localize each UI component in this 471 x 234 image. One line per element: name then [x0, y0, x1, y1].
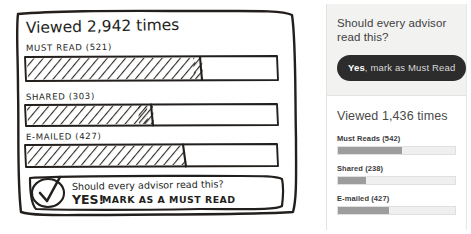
- ask-advisor-block: Should every advisor read this? Yes, mar…: [327, 4, 466, 96]
- sketch-bar-group-emailed: E-MAILED (427): [25, 131, 278, 167]
- sketch-bar-group-shared: SHARED (303): [25, 91, 278, 126]
- sketch-bar-group-must-read: MUST READ (521): [25, 42, 278, 81]
- yes-label: Yes: [348, 62, 365, 73]
- stats-block: Viewed 1,436 times Must Reads (542) Shar…: [327, 96, 466, 234]
- progress-bar-fill: [338, 177, 366, 184]
- stats-title: Viewed 1,436 times: [337, 109, 456, 123]
- sketch-callout-answer-emphasis: YES!: [71, 192, 104, 207]
- stat-label-shared: Shared (238): [337, 164, 456, 173]
- stat-label-emailed: E-mailed (427): [337, 194, 456, 203]
- stat-row: E-mailed (427): [337, 194, 456, 215]
- sketch-bar-label: SHARED (303): [26, 91, 95, 102]
- mark-as-must-read-button[interactable]: Yes, mark as Must Read: [337, 55, 466, 81]
- sketch-callout[interactable]: Should every advisor read this? YES! MAR…: [30, 176, 283, 210]
- ask-question-text: Should every advisor read this?: [337, 16, 456, 44]
- stat-label-must-reads: Must Reads (542): [337, 134, 456, 143]
- sketch-bar-label: MUST READ (521): [26, 42, 112, 53]
- progress-bar-must-reads: [337, 146, 456, 155]
- sketch-callout-question: Should every advisor read this?: [72, 178, 224, 192]
- sketch-title: Viewed 2,942 times: [26, 16, 180, 37]
- rendered-ui-panel: Should every advisor read this? Yes, mar…: [326, 4, 467, 230]
- checkmark-circle-icon: [32, 177, 64, 207]
- sketch-bar-label: E-MAILED (427): [26, 131, 102, 142]
- stat-row: Shared (238): [337, 164, 456, 185]
- wireframe-sketch: Viewed 2,942 times MUST READ (521) SHARE…: [0, 0, 318, 234]
- mark-as-must-read-label: , mark as Must Read: [365, 62, 456, 73]
- sketch-callout-answer-rest: MARK AS A MUST READ: [102, 194, 236, 205]
- progress-bar-fill: [338, 207, 389, 214]
- stat-row: Must Reads (542): [337, 134, 456, 155]
- progress-bar-shared: [337, 176, 456, 185]
- progress-bar-emailed: [337, 206, 456, 215]
- progress-bar-fill: [338, 147, 402, 154]
